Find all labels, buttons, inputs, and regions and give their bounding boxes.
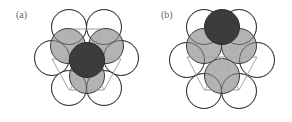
sphere-packing-diagram [0,0,292,122]
sphere-top-layer [205,10,240,45]
panel-label-a: (a) [16,10,27,20]
panel-b [170,10,275,109]
sphere-top-layer [70,43,105,78]
panel-a [35,10,139,106]
sphere-packing-figure: (a) (b) [0,0,292,122]
panel-label-b: (b) [161,10,173,20]
